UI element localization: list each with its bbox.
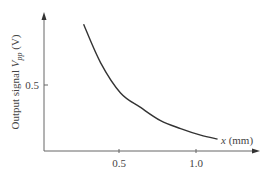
- y-axis-sub: pp: [15, 52, 24, 61]
- chart: 0.5 1.0 0.5 x (mm) Output signal Vpp (V): [0, 0, 279, 177]
- y-axis-arrow-icon: [42, 12, 47, 20]
- y-tick-label-0: 0.5: [25, 79, 39, 91]
- data-curve: [84, 24, 218, 139]
- x-axis-unit: (mm): [226, 134, 254, 147]
- y-axis-label: Output signal Vpp (V): [9, 34, 24, 129]
- x-axis-arrow-icon: [252, 149, 260, 154]
- x-axis-label: x (mm): [220, 134, 253, 147]
- y-axis-unit: (V): [9, 34, 22, 52]
- x-tick-label-1: 1.0: [189, 157, 203, 169]
- x-tick-label-0: 0.5: [112, 157, 126, 169]
- y-axis-prefix: Output signal: [9, 67, 21, 129]
